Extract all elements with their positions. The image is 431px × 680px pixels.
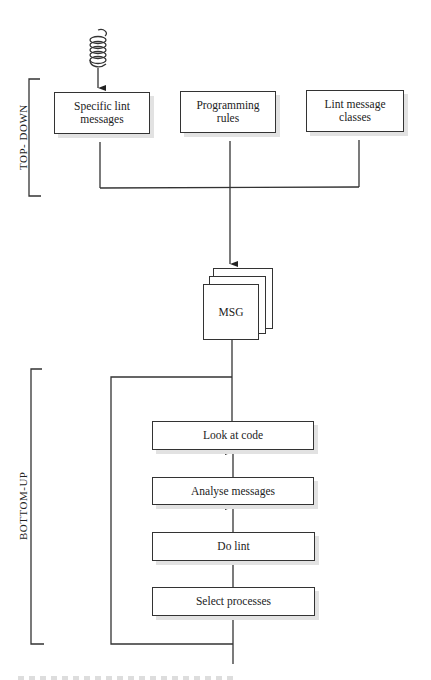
- step-label: Analyse messages: [191, 485, 275, 498]
- step-label: Look at code: [203, 429, 263, 442]
- msg-label: MSG: [219, 306, 244, 319]
- step-select-processes: Select processes: [152, 587, 315, 616]
- bottom-up-label: BOTTOM-UP: [17, 472, 29, 540]
- box-label: classes: [325, 111, 386, 124]
- step-look-at-code: Look at code: [152, 421, 314, 450]
- box-specific-lint-messages: Specific lintmessages: [54, 92, 150, 134]
- msg-box: MSG: [203, 284, 259, 340]
- caption-remnant: [18, 676, 233, 680]
- top-down-label: TOP- DOWN: [17, 104, 29, 170]
- box-label: Specific lint: [74, 100, 130, 113]
- box-label: Lint message: [325, 98, 386, 111]
- box-label: rules: [196, 112, 259, 125]
- step-do-lint: Do lint: [152, 532, 315, 561]
- box-programming-rules: Programmingrules: [180, 91, 276, 133]
- step-label: Select processes: [196, 595, 271, 608]
- coil-spring-icon: [90, 30, 106, 88]
- box-label: messages: [74, 113, 130, 126]
- box-label: Programming: [196, 99, 259, 112]
- step-analyse-messages: Analyse messages: [152, 477, 314, 505]
- box-lint-message-classes: Lint messageclasses: [306, 90, 404, 132]
- step-label: Do lint: [217, 540, 249, 553]
